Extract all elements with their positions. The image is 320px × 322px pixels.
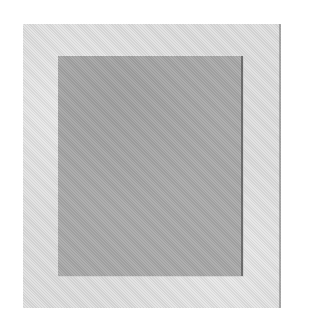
inner-gray-square <box>58 56 243 276</box>
